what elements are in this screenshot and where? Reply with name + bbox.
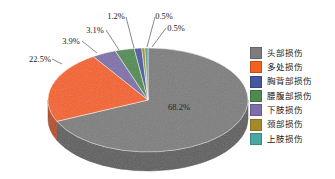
pie-chart: 68.2% 22.5% 3.9% 3.1% 1.2% 0.5% 0.5% 头部损… <box>0 0 335 179</box>
slice-label-lower-limb: 3.9% <box>62 36 80 46</box>
leader-line <box>126 17 134 48</box>
slice-label-chest-back: 1.2% <box>107 11 125 21</box>
legend-color-swatch <box>250 61 262 73</box>
legend-label: 下肢损伤 <box>267 106 303 115</box>
legend-item[interactable]: 颈部损伤 <box>250 117 334 131</box>
leader-line <box>106 30 119 50</box>
legend-item[interactable]: 头部损伤 <box>250 46 334 60</box>
slice-label-abdomen: 3.1% <box>86 25 104 35</box>
legend-item[interactable]: 胸背部损伤 <box>250 75 334 89</box>
legend-item[interactable]: 多处损伤 <box>250 60 334 74</box>
legend-label: 腰腹部损伤 <box>267 92 312 101</box>
slice-label-neck: 0.5% <box>155 11 173 21</box>
chart-legend: 头部损伤多处损伤胸背部损伤腰腹部损伤下肢损伤颈部损伤上肢损伤 <box>250 46 334 146</box>
slice-label-head: 68.2% <box>168 102 190 112</box>
legend-label: 头部损伤 <box>267 49 303 58</box>
pie-slices <box>48 48 248 152</box>
legend-item[interactable]: 腰腹部损伤 <box>250 89 334 103</box>
legend-label: 颈部损伤 <box>267 120 303 129</box>
legend-color-swatch <box>250 90 262 102</box>
legend-color-swatch <box>250 76 262 88</box>
legend-item[interactable]: 上肢损伤 <box>250 132 334 146</box>
leader-line <box>152 28 166 47</box>
legend-label: 上肢损伤 <box>267 135 303 144</box>
slice-label-multiple: 22.5% <box>29 54 51 64</box>
slice-label-upper-limb: 0.5% <box>167 23 185 33</box>
leader-line <box>82 41 97 53</box>
legend-color-swatch <box>250 119 262 131</box>
leader-line <box>147 17 155 47</box>
legend-color-swatch <box>250 104 262 116</box>
leader-line <box>52 59 62 64</box>
legend-label: 多处损伤 <box>267 63 303 72</box>
legend-color-swatch <box>250 47 262 59</box>
legend-item[interactable]: 下肢损伤 <box>250 103 334 117</box>
legend-color-swatch <box>250 133 262 145</box>
legend-label: 胸背部损伤 <box>267 77 312 86</box>
